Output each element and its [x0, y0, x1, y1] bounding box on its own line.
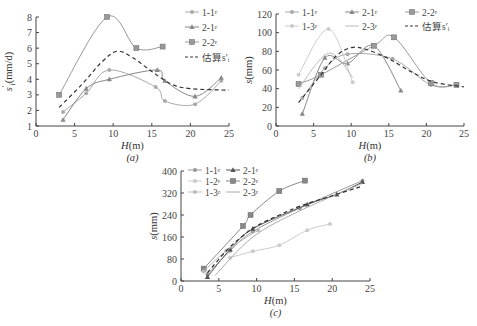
- legend-item: 2-2ᵉ: [422, 8, 438, 18]
- marker-square: [248, 213, 253, 218]
- y-tick-label: 6: [27, 43, 32, 54]
- chart-c: 0510152025080160240320400H(m)(c)s(mm)1-1…: [148, 166, 375, 320]
- legend-item: 2-3ᵉ: [243, 188, 259, 198]
- y-tick-label: 120: [257, 9, 272, 20]
- legend-item: 2-1ᵉ: [243, 166, 259, 176]
- marker-square: [454, 82, 459, 87]
- y-tick-label: 8: [27, 12, 32, 23]
- chart-a: 051015202512345678H(m)(a)s'i(mm/d)1-1ᵉ2-…: [0, 0, 477, 326]
- x-tick-label: 0: [179, 283, 184, 294]
- marker-square: [105, 15, 110, 20]
- y-tick-label: 3: [27, 89, 32, 100]
- x-tick-label: 20: [185, 128, 195, 139]
- legend-item: 1-3ᵉ: [302, 22, 318, 32]
- marker-dot: [290, 24, 294, 28]
- marker-square: [57, 92, 62, 97]
- y-axis-label: s(mm): [148, 212, 160, 240]
- marker-triangle: [300, 111, 305, 116]
- series-line: [207, 186, 362, 273]
- marker-square: [190, 40, 195, 45]
- marker-square: [240, 224, 245, 229]
- y-tick-label: 1: [27, 121, 32, 132]
- marker-square: [277, 189, 282, 194]
- x-tick-label: 20: [421, 128, 431, 139]
- series-line: [215, 183, 362, 275]
- legend-item: 2-1ᵉ: [202, 23, 218, 33]
- marker-dot: [290, 10, 294, 14]
- chart-b: 0510152025020406080100120H(m)(b)s(mm)1-1…: [243, 8, 469, 165]
- y-tick-label: 160: [162, 232, 177, 243]
- legend-item: 1-1ᵉ: [302, 8, 318, 18]
- x-tick-label: 5: [311, 128, 316, 139]
- marker-square: [160, 44, 165, 49]
- y-tick-label: 5: [27, 58, 32, 69]
- legend-item: 1-1ᵉ: [202, 8, 218, 18]
- marker-dot: [193, 102, 197, 106]
- y-tick-label: 7: [27, 27, 32, 38]
- series-line: [302, 53, 456, 98]
- chart-a: 051015202512345678H(m)(a)s'i(mm/d)1-1ᵉ2-…: [1, 8, 235, 165]
- legend-item: 1-2ᵉ: [205, 177, 221, 187]
- x-tick-label: 25: [459, 128, 469, 139]
- x-tick-label: 0: [34, 128, 39, 139]
- y-tick-label: 40: [262, 83, 272, 94]
- x-tick-label: 15: [384, 128, 394, 139]
- marker-triangle: [398, 88, 403, 93]
- x-tick-label: 20: [327, 283, 337, 294]
- x-tick-label: 5: [72, 128, 77, 139]
- y-tick-label: 2: [27, 105, 32, 116]
- y-tick-label: 80: [167, 254, 177, 265]
- marker-dot: [193, 190, 197, 194]
- marker-dot: [193, 168, 197, 172]
- y-tick-label: 320: [162, 188, 177, 199]
- x-tick-label: 0: [274, 128, 279, 139]
- y-tick-label: 80: [262, 46, 272, 57]
- y-tick-label: 20: [262, 102, 272, 113]
- x-tick-label: 10: [108, 128, 118, 139]
- marker-dot: [84, 91, 88, 95]
- marker-dot: [61, 110, 65, 114]
- x-tick-label: 10: [346, 128, 356, 139]
- marker-dot: [328, 222, 332, 226]
- marker-dot: [107, 68, 111, 72]
- x-tick-label: 25: [365, 283, 375, 294]
- series-line: [230, 224, 330, 258]
- legend-item: 2-2ᵉ: [202, 38, 218, 48]
- x-axis-label: H(m): [120, 140, 144, 152]
- legend-item: 2-1ᵉ: [362, 8, 378, 18]
- marker-dot: [190, 10, 194, 14]
- marker-dot: [256, 228, 260, 232]
- marker-dot: [305, 228, 309, 232]
- y-tick-label: 100: [257, 27, 272, 38]
- y-axis-label: s(mm): [243, 56, 255, 84]
- marker-dot: [251, 249, 255, 253]
- y-tick-label: 60: [262, 65, 272, 76]
- chart-caption: (c): [270, 307, 282, 319]
- marker-square: [392, 35, 397, 40]
- legend-item: 1-3ᵉ: [205, 188, 221, 198]
- y-tick-label: 4: [27, 74, 32, 85]
- series-line: [207, 181, 362, 275]
- marker-dot: [297, 73, 301, 77]
- series-line: [63, 70, 221, 112]
- x-tick-label: 5: [216, 283, 221, 294]
- y-tick-label: 240: [162, 210, 177, 221]
- marker-dot: [193, 179, 197, 183]
- marker-square: [371, 43, 376, 48]
- marker-dot: [163, 99, 167, 103]
- chart-caption: (a): [126, 152, 139, 164]
- marker-square: [302, 178, 307, 183]
- legend-item: 估算s′ᵢ: [422, 21, 450, 32]
- marker-dot: [154, 85, 158, 89]
- marker-square: [410, 10, 415, 15]
- y-axis-label: s'i(mm/d): [1, 51, 18, 91]
- marker-triangle: [219, 75, 224, 80]
- marker-dot: [345, 52, 349, 56]
- legend-item: 2-3ᵉ: [362, 22, 378, 32]
- legend-item: 估算s′ᵢ: [202, 52, 230, 63]
- marker-dot: [202, 269, 206, 273]
- x-axis-label: H(m): [263, 295, 287, 307]
- series-line: [299, 29, 353, 82]
- legend-item: 1-1ᵉ: [205, 166, 221, 176]
- y-tick-label: 0: [267, 121, 272, 132]
